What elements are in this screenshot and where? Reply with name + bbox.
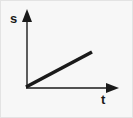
- x-axis-label: t: [101, 93, 105, 106]
- y-axis-label: s: [10, 12, 17, 25]
- figure-container: s t: [0, 0, 133, 118]
- graph-canvas: [0, 0, 133, 118]
- horizontal-axis-arrowhead-icon: [106, 83, 119, 93]
- vertical-axis-arrowhead-icon: [22, 9, 32, 22]
- data-line-uniform-motion: [26, 52, 92, 87]
